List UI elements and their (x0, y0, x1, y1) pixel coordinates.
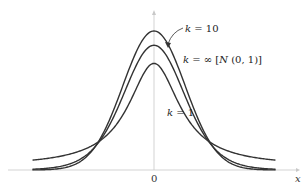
label-k1: k = 1 (167, 107, 194, 118)
t-distribution-chart: k = 10 k = ∞ [N (0, 1)] k = 1 0 x (0, 0, 307, 191)
k10-leader-line (168, 28, 183, 44)
label-k-infinity: k = ∞ [N (0, 1)] (183, 54, 262, 65)
origin-tick-label: 0 (151, 173, 157, 184)
label-k10: k = 10 (185, 23, 219, 34)
y-axis-arrow-icon (152, 10, 156, 15)
x-axis-label: x (295, 173, 301, 184)
x-axis-arrow-icon (296, 168, 300, 172)
